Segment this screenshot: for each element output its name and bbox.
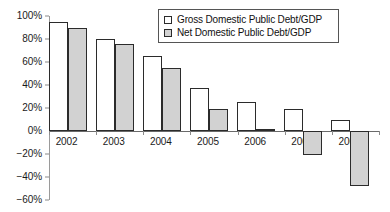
y-axis-tick-mark	[45, 154, 49, 155]
bar-net-2007	[303, 131, 322, 155]
x-axis-tick-mark	[285, 131, 286, 135]
y-axis-tick-label: 20%	[0, 103, 42, 113]
bar-gross-2007	[284, 109, 303, 131]
y-axis-tick-label: 0%	[0, 126, 42, 136]
bar-gross-2006	[237, 102, 256, 131]
bar-net-2004	[162, 68, 181, 131]
legend-label-net: Net Domestic Public Debt/GDP	[177, 28, 311, 38]
bar-gross-2004	[143, 56, 162, 131]
bar-net-2002	[68, 28, 87, 132]
chart-legend: Gross Domestic Public Debt/GDP Net Domes…	[158, 9, 339, 43]
legend-swatch-net-icon	[164, 29, 172, 37]
bar-chart: 100%80%60%40%20%0%−20%−40%−60%2002200320…	[0, 0, 390, 212]
x-axis-tick-mark	[332, 131, 333, 135]
bar-gross-2005	[190, 88, 209, 131]
legend-item-net: Net Domestic Public Debt/GDP	[164, 26, 332, 39]
bar-gross-2003	[96, 39, 115, 131]
x-axis-tick-mark	[49, 131, 50, 135]
y-axis-tick-label: −60%	[0, 195, 42, 205]
x-axis-tick-label: 2006	[244, 136, 266, 147]
bar-net-2008	[350, 131, 369, 186]
legend-swatch-gross-icon	[164, 16, 172, 24]
x-axis-tick-mark	[379, 131, 380, 135]
y-axis-tick-label: 80%	[0, 34, 42, 44]
x-axis-tick-mark	[143, 131, 144, 135]
x-axis-tick-mark	[96, 131, 97, 135]
y-axis-tick-label: 100%	[0, 11, 42, 21]
bar-net-2003	[115, 44, 134, 131]
x-axis-tick-label: 2003	[103, 136, 125, 147]
y-axis-tick-mark	[45, 177, 49, 178]
bar-net-2006	[256, 129, 275, 131]
bar-net-2005	[209, 109, 228, 131]
x-axis-tick-label: 2002	[56, 136, 78, 147]
x-axis-tick-label: 2005	[197, 136, 219, 147]
x-axis-tick-mark	[190, 131, 191, 135]
y-axis-tick-label: 40%	[0, 80, 42, 90]
y-axis-tick-mark	[45, 200, 49, 201]
legend-label-gross: Gross Domestic Public Debt/GDP	[177, 15, 322, 25]
y-axis-tick-label: 60%	[0, 57, 42, 67]
y-axis-tick-label: −20%	[0, 149, 42, 159]
y-axis-tick-mark	[45, 16, 49, 17]
x-axis-tick-mark	[238, 131, 239, 135]
legend-item-gross: Gross Domestic Public Debt/GDP	[164, 13, 332, 26]
x-axis-line	[49, 131, 379, 132]
y-axis-tick-label: −40%	[0, 172, 42, 182]
x-axis-tick-label: 2004	[150, 136, 172, 147]
bar-gross-2008	[331, 120, 350, 132]
bar-gross-2002	[49, 22, 68, 131]
